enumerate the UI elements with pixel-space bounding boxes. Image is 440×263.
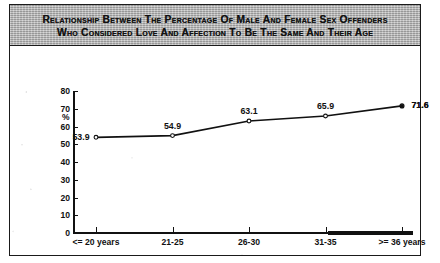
chart-title-line-1: Relationship between the Percentage of M… (42, 13, 387, 26)
data-point-label: 65.9 (317, 101, 334, 111)
series-marker (324, 114, 328, 118)
series-marker (171, 134, 175, 138)
data-point-label: 53.9 (72, 132, 89, 142)
data-point-label: 71.6 (411, 100, 428, 110)
data-series-line (10, 46, 422, 257)
series-marker (247, 119, 251, 123)
series-marker (400, 104, 404, 108)
figure-frame: Relationship between the Percentage of M… (9, 4, 421, 256)
plot-area: % 80706050403020100 <= 20 years21-2526-3… (10, 46, 420, 255)
data-point-label: 63.1 (240, 106, 257, 116)
chart-title-line-2: Who Considered Love and Affection to Be … (57, 26, 373, 39)
chart-title-band: Relationship between the Percentage of M… (10, 5, 420, 46)
data-point-label: 54.9 (164, 121, 181, 131)
series-marker (94, 135, 98, 139)
